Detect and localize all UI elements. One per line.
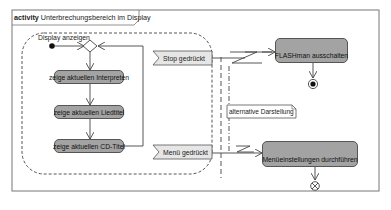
signal-stop-label: Stop gedrückt [163, 51, 205, 65]
frame-title: activity Unterbrechungsbereich im Displa… [12, 10, 156, 25]
flow-final-node [311, 182, 320, 191]
note-label: alternative Darstellung [229, 105, 294, 118]
action-cdtitel: zeige aktuellen CD-Titel [54, 139, 124, 153]
call-action-flash: FLASHman ausschalten [275, 38, 348, 63]
initial-node [49, 43, 55, 49]
call-action-menu-settings: Menüeinstellungen durchführen [262, 141, 358, 167]
frame-title-text: Unterbrechungsbereich im Display [41, 13, 151, 22]
region-label: Display anzeigen [38, 34, 90, 41]
action-liedtitel: zeige aktuellen Liedtitel [54, 105, 124, 119]
frame-keyword: activity [14, 13, 39, 22]
signal-menu-label: Menü gedrückt [163, 145, 208, 159]
action-interpret: zeige aktuellen Interpreten [54, 70, 124, 84]
